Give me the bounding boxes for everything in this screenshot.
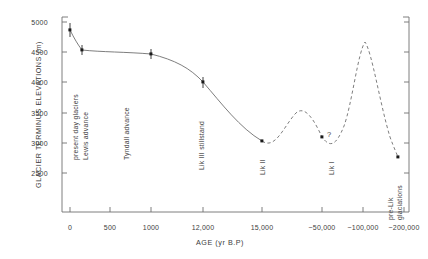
curve-dashed <box>262 42 398 157</box>
y-axis-ticks <box>62 22 409 173</box>
marker-lik-ii <box>260 139 263 142</box>
marker-lewis-advance <box>80 48 83 51</box>
chart-figure: GLACIER TERMINUS ELEVATIONS (m) AGE (yr … <box>0 0 428 259</box>
marker-tyndall-advance <box>149 52 152 55</box>
plot-frame <box>62 17 409 212</box>
marker-lik-i <box>320 135 323 138</box>
marker-pre-lik-glaciations <box>396 155 399 158</box>
marker-lik-iii-stillstand <box>201 80 204 83</box>
x-axis-ticks <box>70 207 404 212</box>
error-bars <box>70 23 203 88</box>
data-point-markers <box>68 28 399 158</box>
curve-solid <box>70 30 262 141</box>
chart-canvas <box>0 0 428 259</box>
marker-present-day-glaciers <box>68 28 71 31</box>
